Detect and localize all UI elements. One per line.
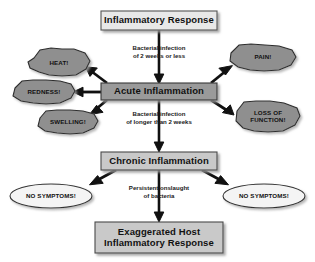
- arrow-response-to-acute: [154, 30, 164, 84]
- box-chronic-inflammation: [101, 152, 217, 170]
- arrow-acute-to-chronic: [154, 100, 164, 152]
- cloud-swelling: [38, 110, 98, 134]
- cloud-redness: [13, 80, 75, 104]
- arrow-acute-to-redness: [73, 87, 101, 97]
- arrow-acute-to-pain: [211, 66, 233, 83]
- arrow-acute-to-heat: [86, 67, 108, 83]
- arrow-acute-to-swelling: [90, 100, 108, 115]
- ellipse-no-symptoms-left: [10, 184, 92, 208]
- arrow-chronic-to-exaggerated: [154, 170, 164, 222]
- arrow-chronic-to-right: [202, 170, 229, 185]
- arrow-chronic-to-left: [90, 170, 117, 185]
- cloud-heat: [28, 48, 90, 76]
- cloud-pain: [230, 44, 296, 71]
- box-inflammatory-response: [101, 11, 217, 30]
- box-exaggerated-host-inflammatory-response: [95, 222, 223, 253]
- diagram-canvas: Inflammatory Response Acute Inflammation…: [0, 0, 315, 262]
- ellipse-no-symptoms-right: [223, 184, 305, 208]
- arrow-layer: [73, 30, 234, 222]
- diagram-graphics: [0, 0, 315, 262]
- cloud-loss-of-function: [236, 101, 300, 132]
- box-acute-inflammation: [101, 83, 217, 100]
- ellipse-layer: [10, 184, 305, 208]
- arrow-acute-to-loss: [211, 100, 234, 115]
